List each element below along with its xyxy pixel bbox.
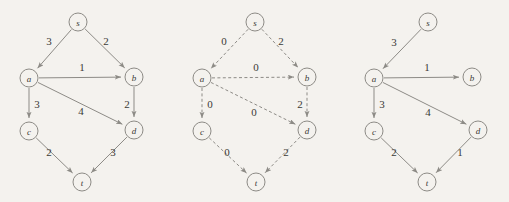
node-t: t [247, 173, 265, 191]
edge-weight-d-t: 1 [457, 146, 463, 158]
edge-weight-a-b: 1 [79, 61, 85, 73]
edge-weight-d-t: 3 [110, 146, 116, 158]
node-label-d: d [476, 126, 481, 136]
node-label-a: a [372, 74, 377, 84]
edge-d-to-t [436, 137, 471, 173]
edge-a-to-d [38, 82, 122, 124]
node-b: b [298, 68, 316, 86]
edge-weight-s-b: 2 [103, 35, 109, 47]
node-label-c: c [27, 127, 31, 137]
node-label-b: b [305, 73, 310, 83]
graph-canvas: 3213422302000202313421 sabcdtsabcdtsabcd… [0, 0, 509, 202]
node-t: t [73, 173, 91, 191]
node-label-s: s [253, 18, 257, 28]
graph-figure: 3213422302000202313421 sabcdtsabcdtsabcd… [0, 0, 509, 202]
node-a: a [20, 69, 38, 87]
edge-weight-a-d: 4 [425, 106, 431, 118]
node-label-a: a [27, 74, 32, 84]
edge-a-to-b [384, 77, 459, 78]
node-c: c [193, 122, 211, 140]
node-label-b: b [132, 73, 137, 83]
node-label-a: a [200, 74, 205, 84]
node-s: s [69, 13, 87, 31]
node-s: s [246, 13, 264, 31]
edge-weight-s-b: 2 [278, 35, 284, 47]
node-t: t [418, 173, 436, 191]
edge-weight-c-t: 0 [224, 146, 230, 158]
node-b: b [463, 68, 481, 86]
edge-weight-b-d: 2 [297, 98, 303, 110]
edge-s-to-a [38, 30, 72, 69]
edge-weight-a-c: 0 [207, 98, 213, 110]
edge-s-to-a [211, 29, 248, 68]
node-label-s: s [426, 18, 430, 28]
edge-weight-c-t: 2 [391, 146, 397, 158]
node-label-s: s [76, 18, 80, 28]
node-a: a [193, 69, 211, 87]
edge-weight-d-t: 2 [283, 146, 289, 158]
node-d: d [125, 121, 143, 139]
edge-weight-c-t: 2 [46, 146, 52, 158]
node-c: c [365, 122, 383, 140]
nodes-layer: sabcdtsabcdtsabcdt [20, 13, 487, 191]
edge-weight-b-d: 2 [124, 98, 130, 110]
node-d: d [469, 121, 487, 139]
node-c: c [20, 122, 38, 140]
edge-a-to-b [39, 77, 121, 78]
node-d: d [298, 121, 316, 139]
edge-weight-a-b: 1 [424, 61, 430, 73]
node-label-d: d [132, 126, 137, 136]
edge-weights-layer: 3213422302000202313421 [34, 35, 463, 158]
edge-weight-a-b: 0 [253, 61, 259, 73]
node-label-d: d [305, 126, 310, 136]
node-s: s [419, 13, 437, 31]
edge-s-to-a [383, 29, 421, 68]
edge-weight-a-d: 0 [251, 106, 257, 118]
edges-layer [29, 29, 471, 173]
edge-c-to-t [381, 138, 417, 173]
edge-a-to-b [212, 77, 294, 78]
edge-weight-a-c: 3 [34, 98, 40, 110]
edge-weight-a-c: 3 [379, 98, 385, 110]
edge-weight-s-a: 3 [46, 35, 52, 47]
node-a: a [365, 69, 383, 87]
node-b: b [125, 68, 143, 86]
edge-weight-s-a: 3 [391, 36, 397, 48]
node-label-b: b [470, 73, 475, 83]
edge-c-to-t [36, 138, 72, 173]
edge-d-to-t [91, 137, 127, 173]
edge-weight-a-d: 4 [78, 105, 84, 117]
node-label-c: c [372, 127, 376, 137]
node-label-c: c [200, 127, 204, 137]
edge-weight-s-a: 0 [221, 35, 227, 47]
